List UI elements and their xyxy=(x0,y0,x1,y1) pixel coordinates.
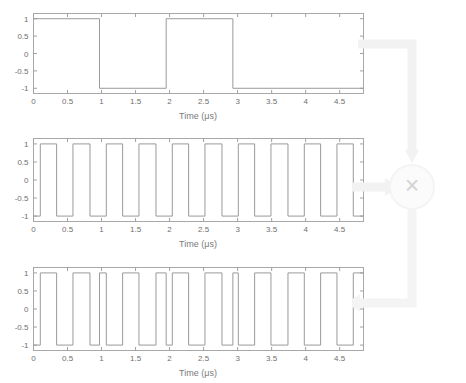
x-tick-label: 0.5 xyxy=(62,225,74,234)
x-tick-label: 1 xyxy=(99,225,104,234)
x-tick-labels-group: 00.511.522.533.544.5 xyxy=(31,225,346,234)
axes-box xyxy=(34,139,364,222)
x-tick-label: 1.5 xyxy=(130,97,142,106)
x-tick-labels-group: 00.511.522.533.544.5 xyxy=(31,354,346,363)
y-tick-label: 1 xyxy=(24,140,29,149)
y-tick-label: 1 xyxy=(24,269,29,278)
x-tick-label: 2 xyxy=(167,354,172,363)
x-tick-label: 2.5 xyxy=(198,225,210,234)
signal-trace xyxy=(34,273,364,345)
plot-svg-chip-signal: -1-0.500.51 00.511.522.533.544.5 Time (μ… xyxy=(0,125,380,258)
multiplier-node xyxy=(390,165,434,209)
x-tick-label: 4.5 xyxy=(334,97,346,106)
x-tick-label: 1 xyxy=(99,97,104,106)
signal-trace xyxy=(34,19,364,89)
y-tick-label: -0.5 xyxy=(15,194,29,203)
x-tick-label: 4.5 xyxy=(334,225,346,234)
x-tick-label: 4.5 xyxy=(334,354,346,363)
axes-box xyxy=(34,268,364,351)
axis-ticks-group xyxy=(34,268,364,351)
multiply-icon: × xyxy=(405,171,420,199)
y-tick-label: 0.5 xyxy=(17,32,29,41)
x-tick-label: 1.5 xyxy=(130,225,142,234)
x-tick-label: 3 xyxy=(235,354,240,363)
arrowhead-into-multiplier-top xyxy=(405,150,419,163)
y-tick-label: 1 xyxy=(24,15,29,24)
x-tick-label: 3.5 xyxy=(266,225,278,234)
y-tick-labels-group: -1-0.500.51 xyxy=(15,269,29,350)
x-tick-label: 3.5 xyxy=(266,97,278,106)
x-tick-label: 2.5 xyxy=(198,97,210,106)
axis-ticks-group xyxy=(34,139,364,222)
x-tick-label: 0.5 xyxy=(62,354,74,363)
x-tick-label: 2 xyxy=(167,225,172,234)
y-tick-label: 0 xyxy=(24,305,29,314)
figure-canvas: -1-0.500.51 00.511.522.533.544.5 Time (μ… xyxy=(0,0,466,383)
plot-panel-product-signal: -1-0.500.51 00.511.522.533.544.5 Time (μ… xyxy=(0,258,380,383)
y-tick-label: -1 xyxy=(21,84,29,93)
axis-ticks-group xyxy=(34,14,364,94)
plot-panel-chip-signal: -1-0.500.51 00.511.522.533.544.5 Time (μ… xyxy=(0,125,380,258)
plot-svg-data-signal: -1-0.500.51 00.511.522.533.544.5 Time (μ… xyxy=(0,0,380,125)
axes-box xyxy=(34,14,364,94)
x-tick-label: 0 xyxy=(31,97,36,106)
x-tick-label: 4 xyxy=(303,97,308,106)
x-tick-label: 3 xyxy=(235,225,240,234)
x-tick-label: 0 xyxy=(31,225,36,234)
x-axis-label-plot1: Time (μs) xyxy=(179,111,217,121)
x-axis-label-plot2: Time (μs) xyxy=(179,239,217,249)
x-tick-label: 1.5 xyxy=(130,354,142,363)
y-tick-label: 0.5 xyxy=(17,158,29,167)
x-tick-labels-group: 00.511.522.533.544.5 xyxy=(31,97,346,106)
x-tick-label: 0 xyxy=(31,354,36,363)
signal-trace xyxy=(34,144,364,216)
x-axis-label-plot3: Time (μs) xyxy=(179,368,217,378)
y-tick-label: -1 xyxy=(21,212,29,221)
x-tick-label: 4 xyxy=(303,225,308,234)
y-tick-label: 0 xyxy=(24,176,29,185)
x-tick-label: 0.5 xyxy=(62,97,74,106)
x-tick-label: 3 xyxy=(235,97,240,106)
y-tick-label: -0.5 xyxy=(15,323,29,332)
y-tick-labels-group: -1-0.500.51 xyxy=(15,140,29,221)
x-tick-label: 2 xyxy=(167,97,172,106)
y-tick-label: -0.5 xyxy=(15,67,29,76)
y-tick-labels-group: -1-0.500.51 xyxy=(15,15,29,94)
x-tick-label: 3.5 xyxy=(266,354,278,363)
y-tick-label: 0 xyxy=(24,50,29,59)
arrowhead-into-multiplier-left xyxy=(385,178,400,196)
plot-panel-data-signal: -1-0.500.51 00.511.522.533.544.5 Time (μ… xyxy=(0,0,380,125)
x-tick-label: 1 xyxy=(99,354,104,363)
y-tick-label: -1 xyxy=(21,341,29,350)
x-tick-label: 4 xyxy=(303,354,308,363)
y-tick-label: 0.5 xyxy=(17,287,29,296)
plot-svg-product-signal: -1-0.500.51 00.511.522.533.544.5 Time (μ… xyxy=(0,258,380,383)
x-tick-label: 2.5 xyxy=(198,354,210,363)
